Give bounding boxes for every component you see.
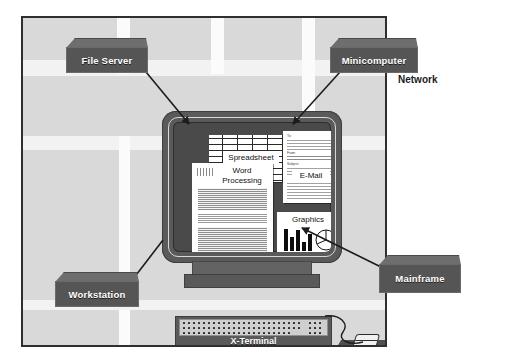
keyboard-key	[193, 332, 195, 334]
bar	[296, 230, 300, 251]
window-title-email: E-Mail	[292, 169, 330, 181]
keyboard-key	[188, 322, 190, 324]
keyboard-key	[203, 322, 205, 324]
keyboard-key	[198, 322, 200, 324]
window-graphics[interactable]: Graphics	[277, 212, 331, 252]
keyboard-key	[223, 332, 225, 334]
keyboard-key	[258, 327, 260, 329]
window-email[interactable]: To: From: Subject: E-Mail	[283, 131, 331, 203]
keyboard-key	[273, 332, 275, 334]
callout-label-x-terminal: X-Terminal	[175, 336, 332, 346]
background-band	[119, 136, 130, 347]
keyboard-key	[258, 332, 260, 334]
keyboard-key	[298, 327, 300, 329]
keyboard-key	[253, 322, 255, 324]
keyboard-key	[283, 327, 285, 329]
callout-front-face: Minicomputer	[330, 47, 418, 73]
keyboard-key	[208, 322, 210, 324]
keyboard-key	[268, 332, 270, 334]
keyboard-key	[213, 332, 215, 334]
keyboard[interactable]: X-Terminal	[175, 316, 332, 347]
keyboard-key	[218, 332, 220, 334]
bar	[284, 229, 288, 251]
diagram-canvas: Spreadsheet Word Processing To: From:	[0, 0, 506, 363]
keyboard-key	[213, 327, 215, 329]
keyboard-key	[223, 327, 225, 329]
keyboard-key	[263, 332, 265, 334]
callout-mainframe[interactable]: Mainframe	[379, 255, 461, 293]
keyboard-key	[309, 332, 311, 334]
keyboard-key	[314, 332, 316, 334]
keyboard-key	[278, 332, 280, 334]
keyboard-key	[314, 327, 316, 329]
keyboard-key	[228, 327, 230, 329]
keyboard-key	[243, 327, 245, 329]
keyboard-key	[183, 322, 185, 324]
keyboard-key	[193, 327, 195, 329]
keyboard-key	[188, 327, 190, 329]
keyboard-key	[248, 322, 250, 324]
keyboard-key	[263, 327, 265, 329]
monitor-base	[184, 274, 320, 288]
keyboard-key	[248, 332, 250, 334]
bar	[308, 234, 312, 251]
keyboard-key	[238, 322, 240, 324]
keyboard-key	[268, 327, 270, 329]
keyboard-key	[268, 322, 270, 324]
keyboard-key	[298, 322, 300, 324]
callout-minicomputer[interactable]: Minicomputer	[330, 38, 418, 73]
keyboard-key	[213, 322, 215, 324]
pie-chart	[315, 229, 331, 251]
email-field-label-from: From:	[287, 151, 296, 155]
keyboard-key	[228, 332, 230, 334]
callout-front-face: File Server	[66, 47, 148, 73]
keyboard-key	[233, 332, 235, 334]
keyboard-key	[238, 327, 240, 329]
keyboard-key	[198, 327, 200, 329]
keyboard-key	[198, 332, 200, 334]
keyboard-key	[319, 322, 321, 324]
keyboard-key	[248, 327, 250, 329]
callout-file-server[interactable]: File Server	[66, 38, 148, 73]
text-block	[198, 188, 267, 210]
keyboard-key	[288, 322, 290, 324]
keyboard-key	[188, 332, 190, 334]
bar	[290, 237, 294, 251]
keyboard-key	[208, 332, 210, 334]
keyboard-key	[228, 322, 230, 324]
keyboard-key	[193, 322, 195, 324]
mouse-cord	[323, 314, 383, 347]
window-title-word-processing: Word Processing	[212, 166, 272, 185]
keyboard-key	[273, 327, 275, 329]
keyboard-key	[243, 332, 245, 334]
monitor: Spreadsheet Word Processing To: From:	[162, 111, 342, 263]
keyboard-key	[203, 327, 205, 329]
callout-label-file-server: File Server	[82, 55, 133, 66]
window-word-processing[interactable]: Word Processing	[192, 163, 273, 252]
email-field-to	[287, 139, 331, 150]
keyboard-key	[233, 327, 235, 329]
keyboard-key	[208, 327, 210, 329]
background-band	[211, 16, 224, 74]
keyboard-key	[273, 322, 275, 324]
text-block	[198, 214, 267, 223]
keyboard-key	[233, 322, 235, 324]
keyboard-keys-area	[179, 319, 328, 336]
callout-label-workstation: Workstation	[69, 289, 126, 300]
keyboard-key	[183, 332, 185, 334]
callout-workstation[interactable]: Workstation	[55, 272, 139, 307]
keyboard-key	[319, 327, 321, 329]
keyboard-key	[283, 322, 285, 324]
keyboard-key	[278, 327, 280, 329]
keyboard-key	[238, 332, 240, 334]
keyboard-key	[283, 332, 285, 334]
keyboard-key	[263, 322, 265, 324]
keyboard-key	[218, 322, 220, 324]
email-field-label-to: To:	[287, 134, 292, 138]
keyboard-key	[288, 332, 290, 334]
keyboard-key	[288, 327, 290, 329]
callout-front-face: Mainframe	[379, 264, 461, 293]
network-label: Network	[398, 74, 437, 85]
text-block	[198, 227, 267, 252]
bar	[302, 242, 306, 251]
